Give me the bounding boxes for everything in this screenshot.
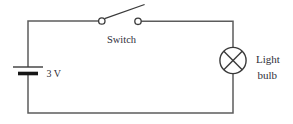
switch-terminal-left (99, 18, 105, 24)
wire-top-right-and-right-upper (141, 21, 233, 47)
battery-symbol (13, 67, 43, 74)
circuit-diagram-canvas: Switch 3 V Light bulb (0, 0, 293, 124)
battery-voltage-label: 3 V (47, 68, 62, 79)
wire-left-lower-bottom-right-lower (28, 74, 233, 113)
bulb-label-line1: Light (256, 53, 280, 65)
switch-label: Switch (107, 34, 137, 45)
light-bulb-symbol (220, 47, 246, 73)
wire-top-left-and-left-upper (28, 21, 99, 66)
switch-arm (105, 5, 145, 19)
bulb-label-line2: bulb (258, 69, 278, 81)
circuit-diagram: Switch 3 V Light bulb (0, 0, 293, 124)
switch-symbol (99, 5, 145, 25)
switch-terminal-right (135, 18, 141, 24)
